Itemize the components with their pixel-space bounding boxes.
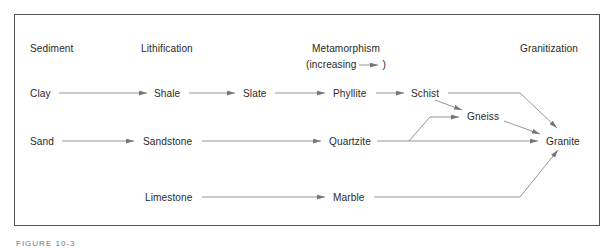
- figure-caption: FIGURE 10-3: [16, 239, 75, 248]
- edge-schist-granite: [448, 93, 557, 128]
- edge-quartzite-gneiss: [409, 117, 459, 141]
- edge-schist-gneiss: [435, 100, 462, 110]
- edge-gneiss-granite: [504, 121, 540, 134]
- edge-marble-granite: [374, 150, 558, 197]
